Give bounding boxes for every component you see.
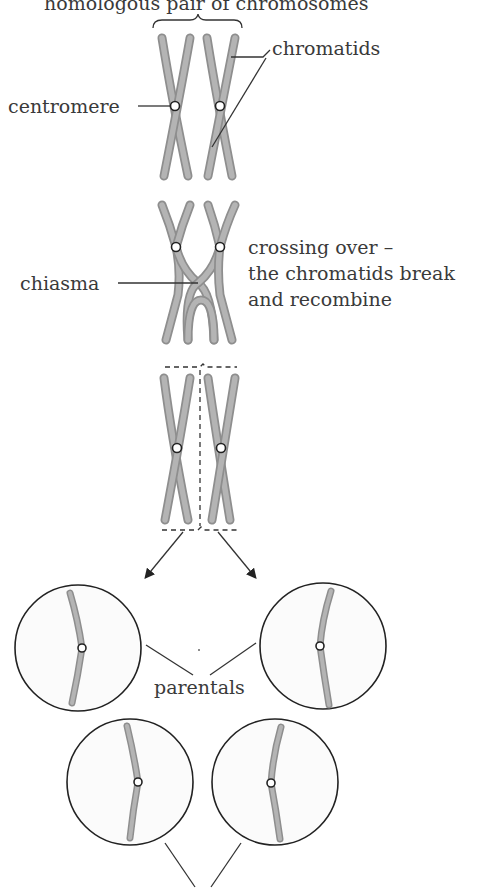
- crossing-over-label-line3: and recombine: [248, 288, 392, 310]
- centromere-icon: [216, 102, 225, 111]
- title-label: homologous pair of chromosomes: [44, 0, 369, 14]
- chiasma-label: chiasma: [20, 272, 99, 294]
- cell-recombinant-2: [212, 719, 338, 845]
- crossing-over-label-line2: the chromatids break: [248, 262, 455, 284]
- centromere-icon: [316, 642, 324, 650]
- centromere-icon: [267, 779, 275, 787]
- centromere-icon: [134, 778, 142, 786]
- chromosome-right: [207, 38, 235, 176]
- centromere-icon: [217, 444, 226, 453]
- homologous-pair: [162, 38, 235, 176]
- cell-parental-2: [260, 583, 386, 709]
- crossing-over-pair: [162, 205, 235, 340]
- dashed-bottom-line: [162, 527, 238, 530]
- centromere-icon: [78, 644, 86, 652]
- speck: [198, 649, 200, 651]
- crossing-over-label-line1: crossing over –: [248, 236, 393, 258]
- recombinants-pointer-right: [211, 843, 241, 887]
- dashed-top-line: [165, 364, 237, 367]
- pair-brace: [153, 14, 242, 28]
- separating-pair: [146, 364, 255, 577]
- chromatids-label: chromatids: [272, 37, 380, 59]
- parentals-pointer-left: [146, 645, 193, 675]
- centromere-icon: [173, 444, 182, 453]
- parentals-pointer-right: [210, 643, 256, 675]
- arrow-right-icon: [218, 532, 255, 577]
- centromere-icon: [171, 102, 180, 111]
- parentals-label: parentals: [154, 676, 245, 698]
- cell-parental-1: [15, 585, 141, 711]
- centromere-label: centromere: [8, 95, 120, 117]
- meiosis-crossing-over-diagram: homologous pair of chromosomes centromer…: [0, 0, 480, 892]
- cell-recombinant-1: [67, 719, 193, 845]
- chromosome-left: [162, 38, 190, 176]
- arrow-left-icon: [146, 532, 183, 577]
- centromere-icon: [172, 243, 181, 252]
- recombinants-pointer-left: [165, 843, 195, 887]
- centromere-icon: [216, 243, 225, 252]
